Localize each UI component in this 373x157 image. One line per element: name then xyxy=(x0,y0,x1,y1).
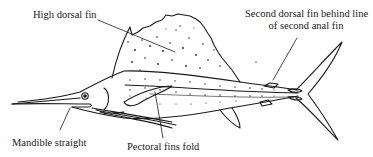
pectoral-fin xyxy=(124,86,172,106)
label-mandible-straight: Mandible straight xyxy=(12,137,86,149)
mandible xyxy=(12,104,91,107)
gill-cover xyxy=(104,88,109,110)
label-pectoral-fins-fold: Pectoral fins fold xyxy=(127,141,199,153)
label-second-dorsal-fin: Second dorsal fin behind line of second … xyxy=(245,8,367,32)
body-spots xyxy=(129,61,274,104)
tail-fin xyxy=(296,42,342,140)
leader-second-dorsal-fin xyxy=(273,38,297,80)
leader-mandible xyxy=(60,108,70,130)
sailfish-diagram: High dorsal fin Second dorsal fin behind… xyxy=(0,0,373,157)
leader-pectoral xyxy=(155,92,163,138)
caudal-keel xyxy=(288,89,302,100)
leader-high-dorsal-fin xyxy=(98,20,175,52)
label-second-dorsal-fin-line2: of second anal fin xyxy=(245,20,367,32)
anal-fin xyxy=(220,108,240,128)
label-high-dorsal-fin: High dorsal fin xyxy=(33,9,97,21)
label-second-dorsal-fin-line1: Second dorsal fin behind line xyxy=(245,8,367,20)
dorsal-fin xyxy=(112,14,240,82)
